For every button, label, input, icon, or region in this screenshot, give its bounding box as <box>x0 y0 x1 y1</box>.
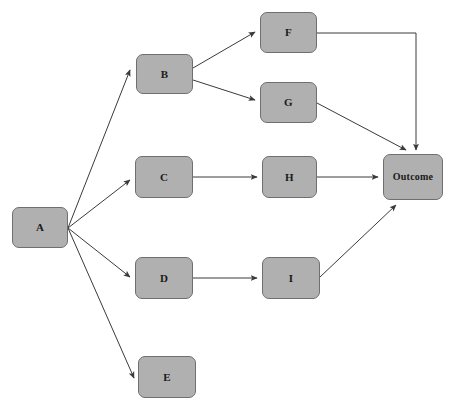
edge-i-to-outcome <box>320 205 396 277</box>
node-b[interactable]: B <box>136 54 193 94</box>
edge-b-to-g <box>193 80 255 100</box>
node-f[interactable]: F <box>260 12 317 53</box>
node-label: D <box>160 273 168 284</box>
node-label: E <box>163 372 171 383</box>
node-label: B <box>161 69 169 80</box>
edge-a-to-e <box>68 228 134 378</box>
node-h[interactable]: H <box>262 156 317 198</box>
diagram-canvas: ABCDEFGHIOutcome <box>0 0 452 409</box>
edge-g-to-outcome <box>317 103 406 150</box>
edge-a-to-d <box>68 228 130 277</box>
node-label: C <box>160 172 168 183</box>
node-label: F <box>285 27 292 38</box>
node-outcome[interactable]: Outcome <box>383 154 443 200</box>
node-label: Outcome <box>393 172 433 182</box>
node-label: G <box>284 97 293 108</box>
edge-layer <box>0 0 452 409</box>
node-label: H <box>285 172 294 183</box>
node-e[interactable]: E <box>138 356 196 398</box>
edge-a-to-b <box>68 70 130 228</box>
edge-f-to-outcome <box>317 33 416 150</box>
node-i[interactable]: I <box>262 257 320 299</box>
node-label: A <box>36 222 44 233</box>
node-label: I <box>289 273 293 284</box>
edge-b-to-f <box>193 32 255 68</box>
node-a[interactable]: A <box>12 207 68 248</box>
node-g[interactable]: G <box>260 82 317 123</box>
edge-a-to-c <box>68 180 130 228</box>
node-d[interactable]: D <box>135 257 193 299</box>
node-c[interactable]: C <box>135 156 193 198</box>
